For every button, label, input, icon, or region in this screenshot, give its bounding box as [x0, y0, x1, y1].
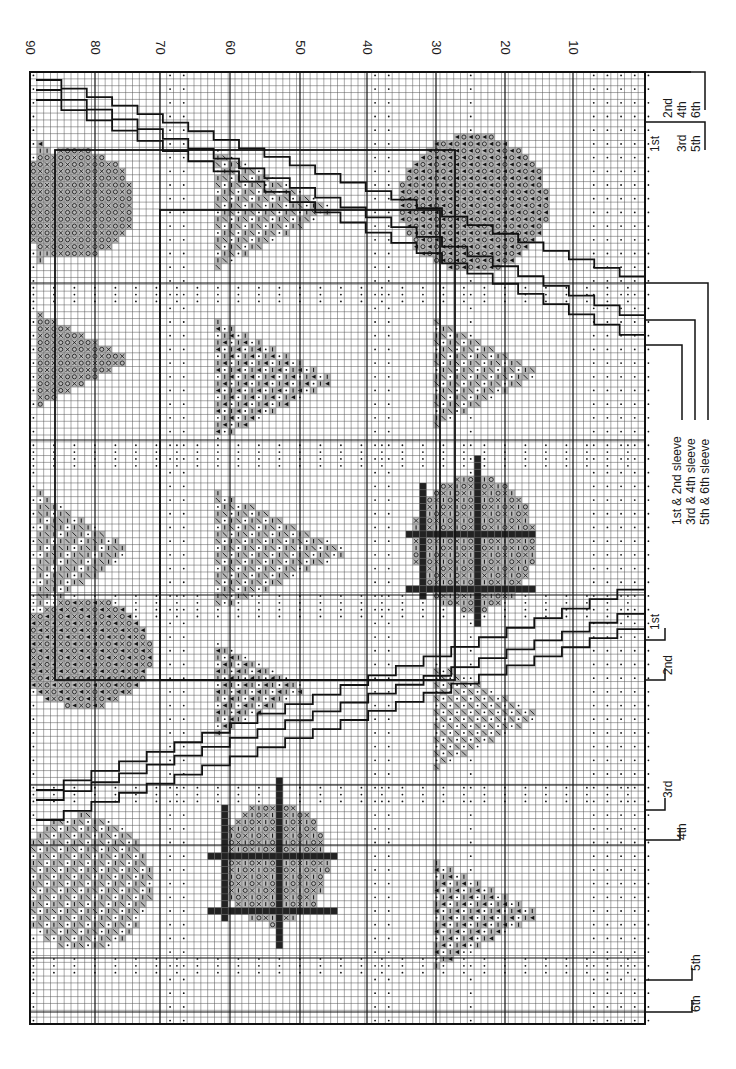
size-label-1st-bottom: 1st	[648, 614, 662, 630]
row-label-60: 60	[223, 37, 238, 59]
size-label-2nd-bottom: 2nd	[661, 655, 675, 675]
row-label-40: 40	[360, 37, 375, 59]
legend-sleeve-5-6: 5th & 6th sleeve	[698, 439, 712, 525]
knitting-chart: 908070605040302010 1st & 2nd sleeve 3rd …	[0, 0, 736, 1069]
row-label-90: 90	[23, 37, 38, 59]
row-label-10: 10	[566, 37, 581, 59]
legend-sleeve-1-2: 1st & 2nd sleeve	[670, 436, 684, 525]
size-label-5th-top: 5th	[689, 135, 703, 152]
size-label-4th-bottom: 4th	[675, 823, 689, 840]
size-label-6th-bottom: 6th	[689, 995, 703, 1012]
row-label-70: 70	[153, 37, 168, 59]
chart-grid	[0, 0, 736, 1069]
size-label-6th-top: 6th	[689, 101, 703, 118]
size-label-5th-bottom: 5th	[689, 954, 703, 971]
row-label-20: 20	[498, 37, 513, 59]
size-label-1st-top: 1st	[648, 136, 662, 152]
legend-sleeve-3-4: 3rd & 4th sleeve	[684, 438, 698, 525]
row-label-50: 50	[293, 37, 308, 59]
size-label-3rd-bottom: 3rd	[661, 781, 675, 798]
row-label-80: 80	[88, 37, 103, 59]
row-label-30: 30	[429, 37, 444, 59]
size-label-4th-top: 4th	[675, 101, 689, 118]
size-label-3rd-top: 3rd	[675, 135, 689, 152]
size-label-2nd-top: 2nd	[661, 98, 675, 118]
